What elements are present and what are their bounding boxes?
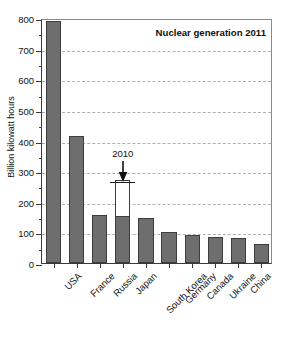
y-tick-major <box>36 265 42 266</box>
x-tick <box>192 263 193 268</box>
x-tick <box>100 263 101 268</box>
bar-rect <box>46 21 61 263</box>
x-tick <box>146 263 147 268</box>
bar-france <box>69 18 84 263</box>
bar-rect <box>208 237 223 263</box>
bar-ukraine <box>208 18 223 263</box>
x-tick <box>238 263 239 268</box>
x-tick-label: USA <box>62 271 83 292</box>
x-tick <box>261 263 262 268</box>
bar-rect <box>185 235 200 263</box>
bar-rect <box>161 232 176 263</box>
bar-usa <box>46 18 61 263</box>
y-tick-label: 800 <box>18 15 34 25</box>
x-tick <box>215 263 216 268</box>
chart-title: Nuclear generation 2011 <box>156 27 266 38</box>
bar-rect <box>92 215 107 263</box>
y-tick-label: 700 <box>18 46 34 56</box>
annotation-arrow-down-icon <box>116 161 129 187</box>
bar-rect <box>254 244 269 263</box>
bar-japan <box>115 18 130 263</box>
bar-south-korea <box>138 18 153 263</box>
bar-rect <box>115 216 130 263</box>
x-tick-label: France <box>88 271 116 299</box>
x-tick <box>123 263 124 268</box>
bar-rect <box>69 136 84 263</box>
y-tick-label: 0 <box>29 260 34 270</box>
y-tick-label: 300 <box>18 168 34 178</box>
bar-united-kingdom <box>254 18 269 263</box>
chart-figure: Billion kilowatt hours 01002003004005006… <box>0 0 284 342</box>
bar-russia <box>92 18 107 263</box>
plot-area: 0100200300400500600700800 2010 Nuclear g… <box>41 19 272 264</box>
bar-rect <box>138 218 153 263</box>
x-tick <box>77 263 78 268</box>
x-tick-label: Japan <box>133 271 158 296</box>
bar-canada <box>185 18 200 263</box>
bar-germany <box>161 18 176 263</box>
y-tick-label: 600 <box>18 77 34 87</box>
y-axis-title: Billion kilowatt hours <box>6 32 16 242</box>
y-tick-label: 400 <box>18 138 34 148</box>
bar-china <box>231 18 246 263</box>
annotation-label-2010: 2010 <box>112 148 133 159</box>
y-tick-label: 200 <box>18 199 34 209</box>
y-tick-label: 100 <box>18 230 34 240</box>
x-tick-label: Russia <box>111 271 138 298</box>
bar-series <box>42 20 271 263</box>
x-tick <box>169 263 170 268</box>
y-tick-label: 500 <box>18 107 34 117</box>
x-tick <box>54 263 55 268</box>
bar-rect <box>231 238 246 263</box>
